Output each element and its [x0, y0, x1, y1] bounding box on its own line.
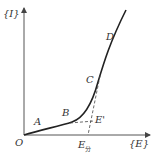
point-a-label: A	[33, 116, 41, 127]
y-axis-label: {I}	[3, 8, 20, 19]
point-d-label: D	[105, 31, 114, 42]
iv-curve-diagram: {I} {E} O A B C D E' E 分	[0, 0, 156, 156]
origin-label: O	[15, 137, 23, 148]
e-fen-subscript: 分	[85, 145, 91, 153]
point-b-label: B	[61, 107, 69, 118]
point-c-label: C	[86, 74, 94, 85]
x-axis-label: {E}	[129, 138, 149, 149]
point-e-prime-label: E'	[94, 114, 105, 125]
